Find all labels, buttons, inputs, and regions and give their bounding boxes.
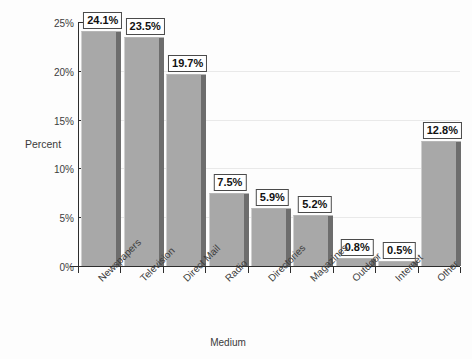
bar-slot: 0.5%	[378, 22, 418, 266]
y-axis-tick-label: 10%	[54, 164, 78, 175]
y-axis-tick: 25%	[54, 13, 78, 31]
y-axis-tick: 5%	[60, 208, 78, 226]
bar-value-label: 12.8%	[423, 122, 462, 139]
y-axis-line	[78, 22, 79, 267]
x-axis-tick-mark	[290, 267, 291, 273]
bar[interactable]	[124, 37, 164, 266]
y-axis-tick-label: 20%	[54, 67, 78, 78]
bar-slot: 5.9%	[251, 22, 291, 266]
bar-value-label: 23.5%	[126, 18, 165, 35]
x-axis-tick-mark	[375, 267, 376, 273]
bar-slot: 12.8%	[421, 22, 461, 266]
y-axis-tick: 0%	[60, 257, 78, 275]
x-axis-tick-mark	[78, 267, 79, 273]
y-axis-title: Percent	[12, 138, 74, 150]
x-axis-tick-mark	[418, 267, 419, 273]
bar[interactable]	[81, 31, 121, 266]
bar-slot: 0.8%	[336, 22, 376, 266]
x-axis-tick-mark	[248, 267, 249, 273]
y-axis-tick-label: 25%	[54, 18, 78, 29]
x-axis-tick-mark	[460, 267, 461, 273]
bar-value-label: 5.9%	[256, 189, 289, 206]
chart-figure: Percent Medium 0%5%10%15%20%25% 24.1%23.…	[0, 0, 472, 359]
bar-slot: 7.5%	[209, 22, 249, 266]
y-axis-tick: 15%	[54, 111, 78, 129]
bar-slot: 19.7%	[166, 22, 206, 266]
bar-value-label: 5.2%	[298, 196, 331, 213]
bar[interactable]	[166, 74, 206, 266]
bar[interactable]	[421, 141, 461, 266]
y-axis-tick-label: 5%	[60, 213, 78, 224]
y-axis-tick-label: 15%	[54, 116, 78, 127]
x-axis-tick-mark	[205, 267, 206, 273]
bar-slot: 23.5%	[124, 22, 164, 266]
y-axis-tick: 10%	[54, 159, 78, 177]
bar-value-label: 7.5%	[213, 174, 246, 191]
bar-slot: 24.1%	[81, 22, 121, 266]
x-axis-tick-mark	[163, 267, 164, 273]
y-axis-tick: 20%	[54, 62, 78, 80]
x-axis-tick-mark	[333, 267, 334, 273]
bar-value-label: 19.7%	[168, 55, 207, 72]
bar-slot: 5.2%	[293, 22, 333, 266]
plot-area: 0%5%10%15%20%25% 24.1%23.5%19.7%7.5%5.9%…	[78, 22, 460, 267]
x-axis-title: Medium	[168, 337, 288, 348]
y-axis-tick-label: 0%	[60, 262, 78, 273]
x-axis-tick-mark	[120, 267, 121, 273]
bar-value-label: 24.1%	[83, 12, 122, 29]
